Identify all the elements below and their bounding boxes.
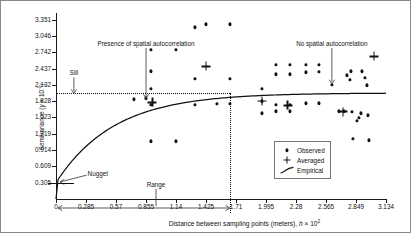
x-tick-label: 0.285	[78, 204, 94, 210]
x-tick-label: 1.71	[230, 204, 242, 210]
y-tick-label: 3.046	[35, 33, 51, 39]
y-tick-label: 0.914	[35, 147, 51, 153]
x-tick-label: 2.849	[348, 204, 364, 210]
x-tick-label: 0.855	[138, 204, 154, 210]
legend-item-averaged: Averaged	[279, 155, 325, 165]
legend-label-averaged: Averaged	[295, 157, 324, 164]
annotation-sill: Sill	[70, 70, 78, 76]
nugget-reference-line	[48, 183, 74, 184]
x-axis-title: Distance between sampling points (meters…	[1, 219, 410, 227]
annotation-nugget: Nugget	[88, 171, 108, 177]
y-tick-label: 2.437	[35, 65, 51, 71]
observed-dot-icon	[279, 145, 295, 155]
empirical-curve-icon	[279, 165, 295, 175]
legend-item-observed: Observed	[279, 145, 325, 155]
x-tick-label: 1.14	[170, 204, 182, 210]
legend: Observed Averaged Empirical	[274, 141, 331, 179]
annotation-presence-of-spatial-autocorrelation: Presence of spatial autocorrelation	[98, 41, 195, 47]
legend-item-empirical: Empirical	[279, 165, 325, 175]
x-tick-label: 1.425	[198, 204, 214, 210]
y-tick-label: 1.828	[35, 98, 51, 104]
plot-area: 0.3050.6090.9141.2191.5231.8282.1322.437…	[56, 13, 386, 199]
x-tick-label: 1.995	[258, 204, 274, 210]
x-tick-label: 3.134	[378, 204, 394, 210]
y-tick-label: 2.742	[35, 49, 51, 55]
y-tick-label: 1.219	[35, 130, 51, 136]
annotation-no-spatial-autocorrelation: No spatial autocorrelation	[296, 41, 367, 47]
x-tick-label: 0	[54, 204, 58, 210]
y-tick-label: 0.609	[35, 163, 51, 169]
y-tick-label: 3.351	[35, 16, 51, 22]
annotation-range: Range	[147, 182, 166, 188]
legend-label-observed: Observed	[295, 147, 325, 154]
legend-label-empirical: Empirical	[295, 167, 323, 174]
x-tick-label: 0.57	[110, 204, 122, 210]
x-tick-label: 2.565	[318, 204, 334, 210]
x-axis-line	[56, 199, 386, 200]
averaged-cross-icon	[279, 155, 295, 165]
y-tick-label: 1.523	[35, 114, 51, 120]
x-axis-title-text: Distance between sampling points (meters…	[91, 220, 320, 227]
figure-container: Semivariance (γ × 10-1) 0.3050.6090.9141…	[0, 0, 411, 233]
y-tick-label: 2.132	[35, 82, 51, 88]
x-tick-label: 2.28	[290, 204, 302, 210]
